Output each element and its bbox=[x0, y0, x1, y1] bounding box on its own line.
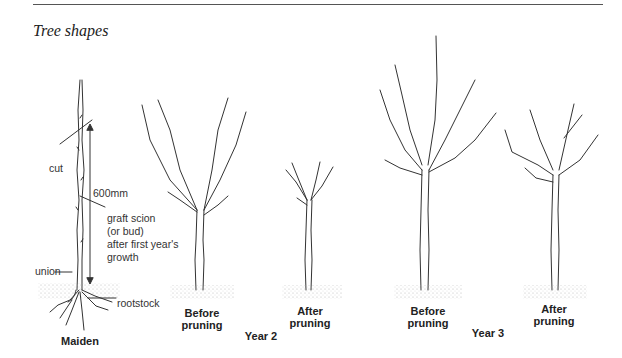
caption-year2-after: After pruning bbox=[278, 305, 342, 329]
group-label-year2: Year 2 bbox=[236, 330, 286, 342]
union-label: union bbox=[35, 265, 61, 278]
caption-line2: pruning bbox=[522, 315, 586, 327]
caption-line2: pruning bbox=[170, 319, 234, 331]
year2-before-tree bbox=[142, 98, 246, 299]
year2-after-tree bbox=[282, 162, 342, 299]
caption-line1: After bbox=[522, 303, 586, 315]
caption-line2: pruning bbox=[394, 317, 462, 329]
year3-before-tree bbox=[380, 36, 496, 299]
graft-label-2: (or bud) bbox=[107, 225, 144, 238]
rootstock-label: rootstock bbox=[117, 297, 160, 310]
caption-line2: pruning bbox=[278, 317, 342, 329]
measure-label: 600mm bbox=[93, 187, 128, 200]
caption-line1: Before bbox=[394, 305, 462, 317]
graft-label-1: graft scion bbox=[107, 212, 155, 225]
year3-after-tree bbox=[505, 104, 598, 299]
caption-line1: After bbox=[278, 305, 342, 317]
graft-label-3: after first year's bbox=[107, 238, 178, 251]
caption-year3-after: After pruning bbox=[522, 303, 586, 327]
cut-label: cut bbox=[49, 162, 63, 175]
caption-line1: Before bbox=[170, 307, 234, 319]
graft-label-4: growth bbox=[107, 251, 139, 264]
caption-year2-before: Before pruning bbox=[170, 307, 234, 331]
group-label-year3: Year 3 bbox=[463, 327, 513, 339]
caption-year3-before: Before pruning bbox=[394, 305, 462, 329]
caption-maiden: Maiden bbox=[50, 335, 110, 347]
maiden-tree bbox=[38, 80, 120, 330]
